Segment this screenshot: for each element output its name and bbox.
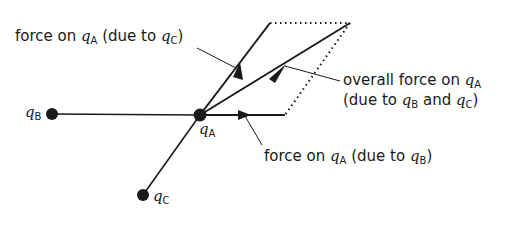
charge-qb — [46, 108, 58, 120]
line-qc-qa — [143, 115, 200, 195]
overall-force-vector — [200, 23, 350, 115]
charge-qc — [137, 189, 149, 201]
label-overall-force: overall force on qA — [343, 72, 481, 93]
label-force-due-to-qb: force on qA (due to qB) — [264, 148, 432, 169]
line-qb-qa — [52, 114, 200, 115]
force-vector-due-to-qc — [200, 23, 270, 115]
leader-force-b — [245, 116, 262, 145]
label-overall-force-cause: (due to qB and qC) — [343, 92, 478, 113]
label-force-due-to-qc: force on qA (due to qC) — [15, 28, 183, 49]
leader-overall — [285, 66, 340, 81]
label-qb: qB — [25, 104, 41, 125]
label-qc: qC — [153, 188, 170, 209]
arrowhead-qb-icon — [238, 110, 251, 120]
label-qa: qA — [199, 121, 215, 142]
leader-force-c — [197, 48, 236, 68]
